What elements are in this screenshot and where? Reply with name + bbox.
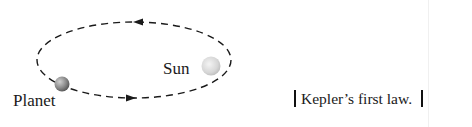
figure-caption: Kepler’s first law. (294, 90, 423, 107)
caption-bar-left (294, 90, 296, 107)
orbit-arrow-bottom-icon (126, 95, 136, 102)
orbit-arrow-top-icon (133, 19, 143, 26)
sun-icon (202, 57, 221, 76)
caption-bar-right (421, 90, 423, 107)
page-edge-line (428, 0, 429, 127)
planet-icon (55, 77, 70, 92)
caption-text: Kepler’s first law. (301, 91, 412, 107)
sun-label: Sun (163, 60, 189, 77)
planet-label: Planet (13, 92, 56, 109)
orbit-diagram: Planet Sun (0, 0, 260, 127)
